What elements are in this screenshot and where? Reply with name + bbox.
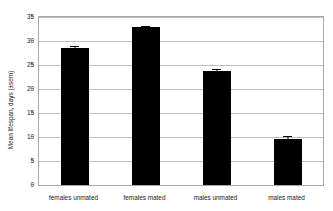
error-bar-cap-top [70, 46, 79, 47]
bar [274, 139, 302, 185]
y-tick-label: 25 [4, 60, 34, 69]
plot-area [38, 16, 324, 186]
y-tick-mark [31, 64, 34, 65]
y-tick-label: 20 [4, 84, 34, 93]
y-tick-mark [31, 136, 34, 137]
error-bar-cap-bottom [283, 141, 292, 142]
y-tick-label: 35 [4, 12, 34, 21]
y-axis-ticks: 05101520253035 [0, 16, 34, 184]
bar [132, 27, 160, 185]
y-tick-mark [31, 112, 34, 113]
y-tick-label: 0 [4, 180, 34, 189]
bar-slot [110, 17, 181, 185]
bar-slot [252, 17, 323, 185]
y-tick-mark [31, 16, 34, 17]
x-axis-labels: females unmatedfemales matedmales unmate… [38, 192, 322, 204]
error-bar-cap-bottom [141, 28, 150, 29]
y-tick-label: 5 [4, 156, 34, 165]
y-tick-mark [31, 88, 34, 89]
y-tick-label: 15 [4, 108, 34, 117]
bar-chart-figure: Mean lifespan, days (±sem) 0510152025303… [0, 0, 333, 211]
y-tick-mark [31, 40, 34, 41]
bar [203, 71, 231, 185]
error-bar [145, 26, 146, 29]
error-bar-cap-bottom [212, 71, 221, 72]
bars-layer [39, 17, 323, 185]
y-tick-mark [31, 160, 34, 161]
x-axis-label: males unmated [180, 192, 251, 204]
bar [61, 48, 89, 185]
error-bar-cap-top [141, 26, 150, 27]
y-tick-mark [31, 184, 34, 185]
x-axis-label: males mated [251, 192, 322, 204]
error-bar [216, 69, 217, 72]
error-bar-cap-top [283, 136, 292, 137]
x-axis-label: females unmated [38, 192, 109, 204]
y-tick-label: 30 [4, 36, 34, 45]
bar-slot [39, 17, 110, 185]
error-bar-cap-bottom [70, 49, 79, 50]
y-tick-label: 10 [4, 132, 34, 141]
error-bar-cap-top [212, 69, 221, 70]
error-bar [74, 46, 75, 50]
error-bar [287, 136, 288, 143]
x-axis-label: females mated [109, 192, 180, 204]
caption-remnant [0, 0, 333, 6]
bar-slot [181, 17, 252, 185]
